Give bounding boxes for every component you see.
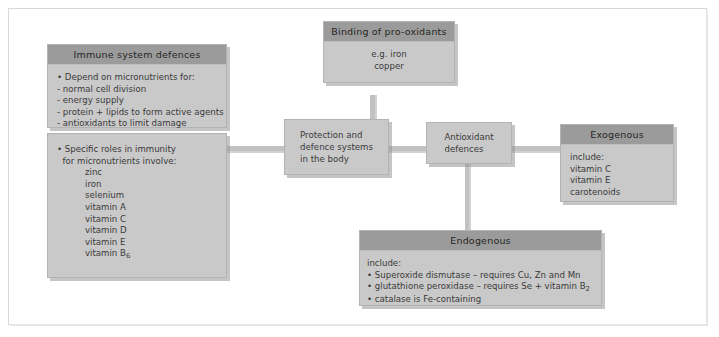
immune-line-1: - normal cell division [57, 84, 217, 96]
specific-roles-line-1: for micronutrients involve: [57, 156, 217, 168]
specific-roles-line-0: • Specific roles in immunity [57, 144, 217, 156]
exogenous-line-0: include: [570, 152, 664, 164]
box-protection-defence-systems[interactable]: Protection and defence systems in the bo… [284, 119, 389, 175]
antioxidant-line-0: Antioxidant [444, 131, 493, 143]
immune-line-4: - antioxidants to limit damage [57, 118, 217, 130]
endogenous-bullet-0-text: • Superoxide dismutase – requires Cu, Zn… [367, 270, 581, 280]
protection-line-1: defence systems [300, 141, 373, 153]
box-immune-system-defences[interactable]: Immune system defences • Depend on micro… [47, 44, 227, 128]
protection-line-2: in the body [300, 153, 373, 165]
antioxidant-line-1: defences [444, 143, 493, 155]
endogenous-bullet-2-text: • catalase is Fe-containing [367, 294, 481, 304]
endogenous-bullet-1: • glutathione peroxidase – requires Se +… [367, 281, 592, 294]
exogenous-line-1: vitamin C [570, 164, 664, 176]
immune-header: Immune system defences [48, 45, 226, 65]
exogenous-body: include: vitamin C vitamin E carotenoids [561, 145, 673, 205]
specific-roles-item-7-base: vitamin B [85, 248, 126, 258]
specific-roles-item-1: iron [57, 179, 217, 191]
immune-line-0: • Depend on micronutrients for: [57, 72, 217, 84]
specific-roles-item-2: selenium [57, 190, 217, 202]
immune-body: • Depend on micronutrients for: - normal… [48, 65, 226, 137]
binding-line-0: e.g. iron [333, 49, 445, 61]
exogenous-header: Exogenous [561, 125, 673, 145]
box-antioxidant-defences[interactable]: Antioxidant defences [426, 122, 512, 164]
connector-antioxidant-to-endogenous [465, 164, 469, 230]
specific-roles-item-7-subscript: 6 [126, 252, 130, 260]
binding-line-1: copper [333, 61, 445, 73]
box-binding-of-pro-oxidants[interactable]: Binding of pro-oxidants e.g. iron copper [323, 21, 455, 83]
diagram-canvas: Immune system defences • Depend on micro… [0, 0, 719, 337]
endogenous-intro: include: [367, 258, 592, 270]
endogenous-header: Endogenous [360, 231, 601, 251]
exogenous-line-2: vitamin E [570, 175, 664, 187]
specific-roles-item-3: vitamin A [57, 202, 217, 214]
binding-body: e.g. iron copper [324, 42, 454, 79]
endogenous-bullet-1-subscript: 2 [586, 285, 590, 293]
box-endogenous[interactable]: Endogenous include: • Superoxide dismuta… [359, 230, 602, 306]
endogenous-bullet-2: • catalase is Fe-containing [367, 294, 592, 306]
specific-roles-item-5: vitamin D [57, 225, 217, 237]
protection-body: Protection and defence systems in the bo… [285, 120, 388, 174]
endogenous-body: include: • Superoxide dismutase – requir… [360, 251, 601, 312]
specific-roles-item-7: vitamin B6 [57, 248, 217, 261]
connector-antioxidant-to-exogenous [512, 146, 560, 151]
immune-line-2: - energy supply [57, 95, 217, 107]
exogenous-line-3: carotenoids [570, 187, 664, 199]
box-exogenous[interactable]: Exogenous include: vitamin C vitamin E c… [560, 124, 674, 202]
specific-roles-item-6: vitamin E [57, 237, 217, 249]
protection-line-0: Protection and [300, 129, 373, 141]
specific-roles-body: • Specific roles in immunity for micronu… [48, 134, 226, 268]
endogenous-bullet-1-text: • glutathione peroxidase – requires Se +… [367, 281, 586, 291]
specific-roles-item-4: vitamin C [57, 214, 217, 226]
antioxidant-body: Antioxidant defences [427, 123, 511, 163]
diagram-frame: Immune system defences • Depend on micro… [8, 8, 707, 325]
endogenous-bullet-0: • Superoxide dismutase – requires Cu, Zn… [367, 270, 592, 282]
specific-roles-item-0: zinc [57, 167, 217, 179]
immune-line-3: - protein + lipids to form active agents [57, 107, 217, 119]
binding-header: Binding of pro-oxidants [324, 22, 454, 42]
box-specific-roles[interactable]: • Specific roles in immunity for micronu… [47, 133, 227, 278]
